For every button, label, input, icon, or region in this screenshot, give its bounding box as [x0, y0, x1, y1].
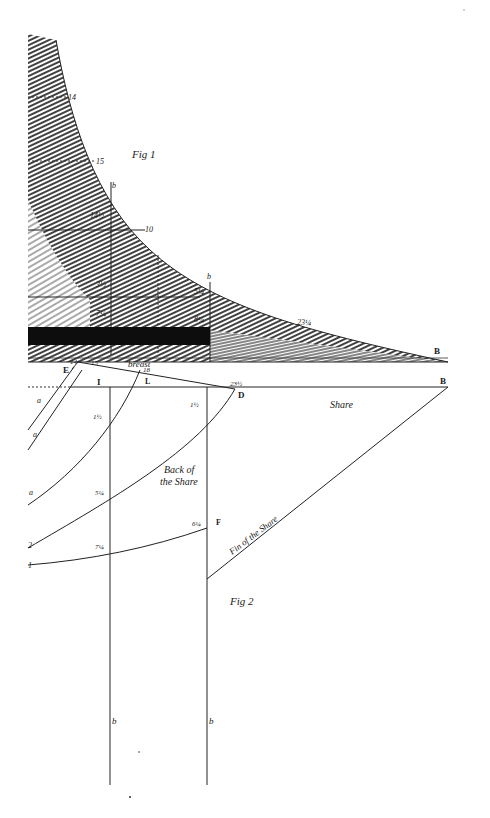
engraving-plate: Fig 1 14 15 b 14½ 10 b 23¼ B 3½ 7¼ 8¼ 5¼ [0, 0, 490, 818]
label-a-3: a [29, 488, 33, 497]
label-inner-1: 3½ [95, 280, 106, 289]
dark-band [28, 327, 210, 345]
label-L: L [145, 377, 150, 386]
num-14: 14 [70, 358, 78, 366]
label-23q: 23¼ [297, 318, 311, 327]
num-15: 15 [91, 359, 99, 367]
fig1-title: Fig 1 [131, 148, 156, 160]
speck [138, 751, 140, 753]
label-back-2: the Share [160, 476, 198, 487]
figure-1: Fig 1 14 15 b 14½ 10 b 23¼ B 3½ 7¼ 8¼ 5¼ [28, 34, 448, 362]
label-D: D [238, 390, 245, 400]
label-b-right: b [207, 272, 211, 281]
measure-1h-left: 1½ [93, 413, 103, 421]
label-F: F [216, 518, 221, 527]
diag-a1 [28, 367, 74, 430]
back-of-share-curve [28, 389, 235, 548]
label-14: 14 [68, 93, 76, 102]
label-b-bottom-right: b [209, 716, 214, 726]
label-a-2: a [33, 430, 37, 439]
label-b-top: b [112, 181, 116, 190]
label-E: E [63, 365, 69, 375]
label-breast: breast [128, 359, 151, 369]
label-10: 10 [145, 225, 153, 234]
fin-line [207, 387, 448, 579]
figure-2: E 14 15 18 23½ breast I L D B Share a a … [28, 358, 448, 785]
label-1: 1 [28, 561, 32, 570]
label-B: B [440, 376, 446, 386]
label-share: Share [330, 399, 354, 410]
label-back-1: Back of [164, 464, 195, 475]
label-b-bottom-left: b [112, 716, 117, 726]
num-23h: 23½ [230, 380, 243, 388]
label-a-1: a [37, 396, 41, 405]
fig2-title: Fig 2 [229, 595, 254, 607]
label-fin: Fin of the Share [226, 514, 279, 557]
label-inner-4: 5¼ [194, 287, 204, 296]
mouldboard-shading [28, 34, 448, 362]
measure-5q: 5¼ [95, 489, 105, 497]
speck [129, 796, 131, 798]
label-B-fig1: B [434, 346, 440, 356]
measure-6q: 6¼ [192, 520, 202, 528]
measure-1h-right: 1½ [190, 401, 200, 409]
label-14h: 14½ [90, 211, 104, 220]
measure-7q: 7¼ [95, 543, 105, 551]
label-I: I [97, 377, 101, 387]
label-15: 15 [96, 157, 104, 166]
curve-a3 [28, 370, 140, 505]
label-2: 2 [28, 541, 32, 550]
label-inner-3: 8¼ [194, 315, 204, 324]
speck [463, 9, 465, 11]
label-inner-2: 7¼ [96, 309, 106, 318]
bottom-curve [28, 528, 207, 565]
